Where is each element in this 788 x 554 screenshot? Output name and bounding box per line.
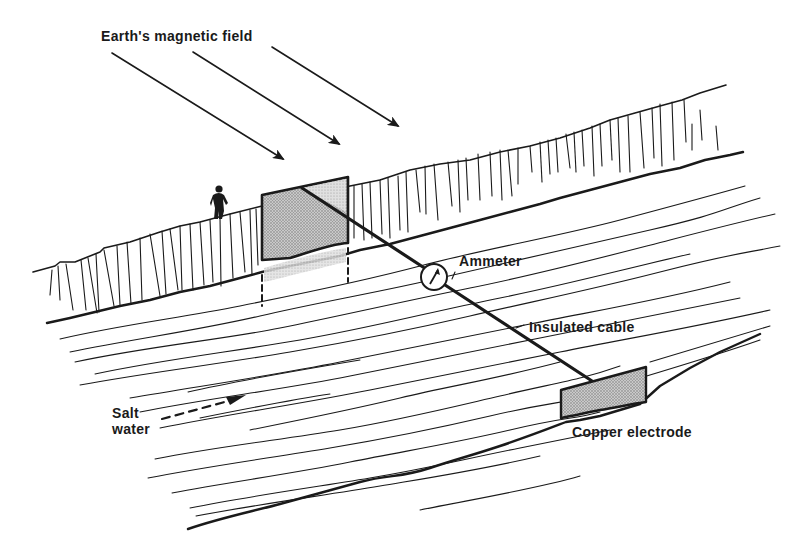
copper-electrode xyxy=(561,367,646,418)
arrow-icon xyxy=(112,53,283,159)
far-cliff xyxy=(33,85,743,323)
person-silhouette-icon xyxy=(210,185,228,219)
induced-current-diagram: Earth's magnetic field xyxy=(0,0,788,554)
insulated-cable-label: Insulated cable xyxy=(529,319,635,335)
copper-electrode-label: Copper electrode xyxy=(572,424,692,440)
salt-water-label-line1: Salt xyxy=(112,405,139,421)
arrow-icon xyxy=(193,52,339,144)
magnetic-field-arrows xyxy=(112,47,398,159)
ammeter-label: Ammeter xyxy=(459,253,522,269)
salt-water-label-line2: water xyxy=(111,421,150,437)
magnetic-field-label: Earth's magnetic field xyxy=(101,28,253,44)
ammeter-dial-icon xyxy=(421,264,447,290)
